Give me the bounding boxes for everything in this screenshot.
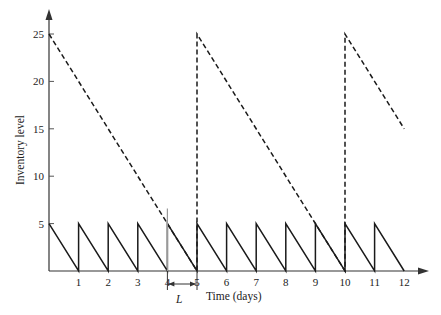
x-tick-label: 7	[253, 276, 259, 288]
x-axis-label: Time (days)	[206, 290, 262, 303]
x-tick-label: 12	[399, 276, 410, 288]
x-tick-label: 11	[369, 276, 380, 288]
axes	[46, 9, 430, 275]
x-tick-label: 8	[283, 276, 289, 288]
x-tick-label: 2	[105, 276, 111, 288]
annotations	[167, 208, 197, 290]
lead-time-label: L	[175, 293, 182, 305]
on-hand-inventory-line	[49, 224, 404, 271]
y-axis-ticks: 510152025	[33, 28, 54, 230]
x-tick-label: 10	[340, 276, 352, 288]
x-axis-arrow-icon	[418, 268, 429, 275]
y-tick-label: 20	[33, 75, 45, 87]
x-tick-label: 9	[313, 276, 319, 288]
y-axis-arrow-icon	[46, 9, 53, 20]
y-axis-label: Inventory level	[14, 115, 27, 185]
y-tick-label: 5	[39, 218, 45, 230]
x-axis-ticks: 123456789101112	[76, 276, 410, 288]
x-tick-label: 6	[224, 276, 230, 288]
y-tick-label: 10	[33, 170, 45, 182]
x-tick-label: 1	[76, 276, 82, 288]
inventory-chart: 510152025 123456789101112 Time (days) In…	[0, 0, 441, 315]
series-layer	[49, 34, 404, 271]
y-tick-label: 25	[33, 28, 45, 40]
x-tick-label: 3	[135, 276, 141, 288]
y-tick-label: 15	[33, 123, 45, 135]
